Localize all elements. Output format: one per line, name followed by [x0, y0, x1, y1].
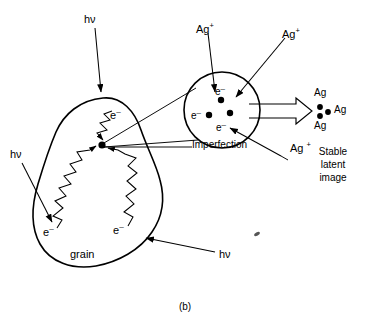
electron-grain-bottom-label: e–: [113, 223, 124, 236]
electron-path-left: [53, 146, 96, 228]
electron-charge: –: [49, 224, 53, 233]
hv-top-label: hν: [84, 14, 96, 25]
circle-atom-dot-middle: [227, 110, 233, 116]
electron-circle-bottom-label: e–: [216, 121, 226, 133]
circle-atom-dot-top: [218, 97, 224, 103]
stable-latent-image-line3: image: [304, 173, 362, 183]
silver-ion-arrow-right: [236, 38, 285, 97]
ag-cluster-dot-3: [325, 109, 331, 115]
electron-charge: –: [197, 108, 201, 117]
silver-ion-bottom-leader: [281, 156, 288, 160]
silver-symbol: Ag: [290, 142, 303, 154]
ag-cluster-middle-label: Ag: [334, 105, 346, 115]
stable-latent-image-line2: latent: [304, 160, 362, 170]
electron-charge: –: [116, 107, 120, 116]
ag-cluster-dot-2: [317, 113, 323, 119]
stray-speck: [253, 231, 260, 237]
silver-symbol: Ag: [282, 28, 295, 40]
circle-atom-dot-left: [206, 112, 212, 118]
grain-outline: [33, 98, 163, 267]
figure-caption: (b): [0, 301, 370, 312]
latent-image-diagram: hν hν hν e– e– e– grain Imperfection e– …: [0, 0, 370, 329]
electron-circle-top-label: e–: [215, 85, 225, 97]
ag-cluster-top-label: Ag: [314, 88, 326, 98]
electron-grain-left-label: e–: [43, 225, 54, 238]
grain-label: grain: [70, 249, 94, 260]
silver-charge: +: [295, 26, 299, 35]
electron-charge: –: [119, 222, 123, 231]
hv-bottom-arrow: [146, 238, 215, 252]
ag-cluster-bottom-label: Ag: [314, 121, 326, 131]
silver-ion-left-label: Ag+: [196, 22, 214, 35]
silver-ion-arrow-left: [208, 33, 215, 92]
silver-symbol: Ag: [196, 23, 209, 35]
silver-ion-right-label: Ag+: [282, 27, 300, 40]
electron-path-bottom: [108, 148, 137, 226]
hv-left-arrow: [22, 163, 52, 222]
magnifier-leader-lower: [104, 140, 198, 147]
electron-grain-top-label: e–: [110, 108, 121, 121]
stable-latent-image-line1: Stable: [304, 147, 362, 157]
silver-charge: +: [209, 21, 213, 30]
hv-bottom-label: hν: [219, 249, 231, 260]
ag-cluster-dot-1: [317, 104, 323, 110]
electron-charge: –: [221, 84, 225, 93]
hv-top-arrow: [95, 28, 101, 92]
imperfection-label: Imperfection: [192, 140, 247, 150]
electron-circle-left-label: e–: [191, 109, 201, 121]
electron-charge: –: [222, 120, 226, 129]
hv-left-label: hν: [10, 149, 22, 160]
